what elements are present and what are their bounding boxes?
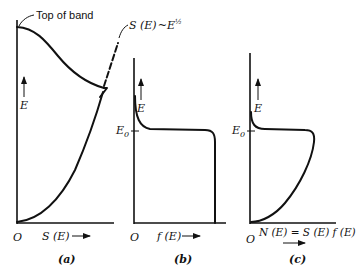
panel-b-origin: O	[130, 231, 139, 244]
panel-c-origin: O	[246, 233, 255, 246]
top-of-band-label: Top of band	[36, 9, 94, 21]
panel-b-caption: (b)	[174, 253, 192, 266]
density-formula-label: S (E)~E½	[129, 18, 182, 32]
panel-a: Top of band S (E)~E½ E O S (E) (a)	[13, 9, 182, 266]
panel-b-fermi-curve	[135, 96, 215, 223]
panel-a-caption: (a)	[58, 253, 76, 266]
panel-c-y-label: E	[253, 102, 262, 115]
panel-c-x-label: N (E) = S (E) f (E)	[258, 226, 356, 238]
panel-a-x-label: S (E)	[42, 230, 70, 243]
density-formula-leader	[119, 25, 128, 38]
panel-b-x-label: f (E)	[156, 230, 181, 243]
panel-c-caption: (c)	[289, 253, 306, 266]
panel-a-origin: O	[13, 231, 22, 244]
top-of-band-leader	[19, 15, 34, 26]
panel-a-top-band-curve	[17, 27, 104, 88]
panel-b-y-label: E	[136, 102, 145, 115]
panel-b: E E0 O f (E) (b)	[115, 58, 226, 266]
panel-c-occupied-curve	[251, 112, 314, 222]
panel-a-y-label: E	[19, 99, 28, 112]
panel-c-e0-label: E0	[231, 124, 245, 139]
band-diagram-figure: Top of band S (E)~E½ E O S (E) (a) E E0 …	[0, 0, 358, 273]
panel-a-density-curve	[17, 92, 103, 222]
panel-c: E E0 O N (E) = S (E) f (E) (c)	[231, 53, 356, 266]
panel-a-dashed-extension	[104, 43, 118, 86]
panel-b-e0-label: E0	[115, 124, 129, 139]
